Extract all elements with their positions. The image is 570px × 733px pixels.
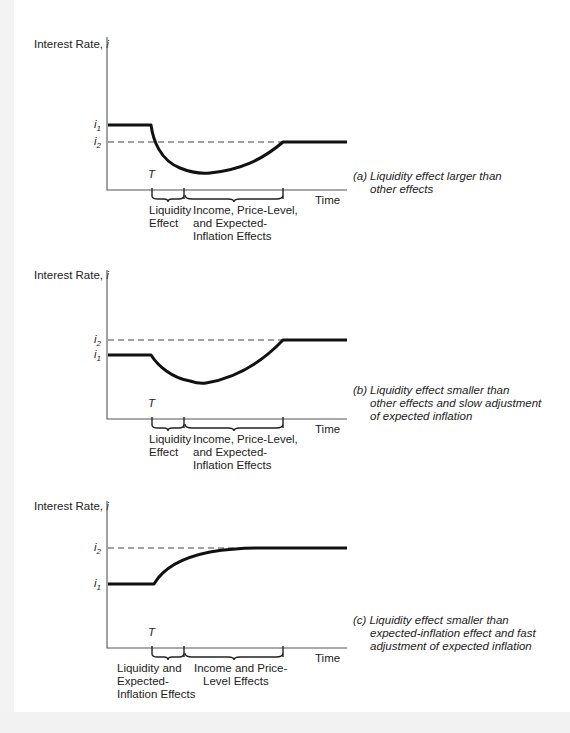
caption-c: (c)Liquidity effect smaller than expecte… — [353, 614, 539, 652]
bracket2-label: Income and Price- Level Effects — [194, 662, 291, 687]
interest-rate-curve — [108, 125, 347, 173]
bracket1-label: Liquidity and Expected- Inflation Effect… — [117, 662, 196, 700]
i1-label: i1 — [94, 118, 101, 133]
interest-rate-curve — [108, 548, 347, 584]
t-marker-label: T — [148, 168, 156, 180]
axes — [107, 501, 347, 648]
axes — [107, 270, 347, 419]
panel-c: Interest Rate, i i2 i1 T Time Liquidity … — [34, 500, 539, 700]
x-axis-label: Time — [315, 194, 340, 206]
t-marker-label: T — [148, 626, 156, 638]
bracket2-label: Income, Price-Level, and Expected- Infla… — [193, 204, 301, 242]
interest-rate-curve — [108, 340, 347, 383]
axes — [107, 37, 347, 190]
t-marker-label: T — [148, 397, 156, 409]
y-axis-label: Interest Rate, i — [34, 500, 109, 512]
caption-a: (a)Liquidity effect larger than other ef… — [353, 170, 505, 195]
i2-label: i2 — [94, 333, 102, 348]
i2-label: i2 — [94, 541, 102, 556]
bracket1-label: Liquidity Effect — [149, 433, 194, 458]
i2-label: i2 — [94, 135, 102, 150]
figure: Interest Rate, i i1 i2 T Time Liquidity … — [0, 0, 570, 733]
caption-b: (b)Liquidity effect smaller than other e… — [353, 384, 545, 422]
y-axis-label: Interest Rate, i — [34, 269, 109, 281]
bracket2-label: Income, Price-Level, and Expected- Infla… — [193, 433, 301, 471]
x-axis-label: Time — [315, 652, 340, 664]
i1-label: i1 — [94, 348, 101, 363]
y-axis-label: Interest Rate, i — [34, 38, 109, 50]
panel-b: Interest Rate, i i2 i1 T Time Liquidity … — [34, 269, 545, 471]
i1-label: i1 — [94, 577, 101, 592]
bracket1-label: Liquidity Effect — [149, 204, 194, 229]
panel-a: Interest Rate, i i1 i2 T Time Liquidity … — [34, 37, 505, 242]
x-axis-label: Time — [315, 423, 340, 435]
